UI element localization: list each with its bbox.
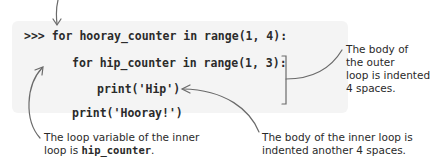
code-line-outer-for: >>> for hooray_counter in range(1, 4): <box>24 29 287 43</box>
annotation-line: The body of the inner loop is <box>262 131 413 144</box>
annotation-text: . <box>151 144 154 156</box>
inner-variable-annotation: The loop variable of the inner loop is h… <box>44 131 199 157</box>
annotation-line: the outer <box>346 56 430 69</box>
annotation-line: loop is hip_counter. <box>44 144 199 157</box>
inner-body-annotation: The body of the inner loop is indented a… <box>262 131 413 157</box>
annotation-line: indented another 4 spaces. <box>262 144 413 157</box>
code-line-print-hip: print('Hip') <box>97 82 180 96</box>
annotation-text: loop is <box>44 144 82 156</box>
annotation-line: The body of <box>346 43 430 56</box>
code-line-print-hooray: print('Hooray!') <box>72 106 183 120</box>
annotation-line: 4 spaces. <box>346 82 430 95</box>
annotation-line: loop is indented <box>346 69 430 82</box>
code-line-inner-for: for hip_counter in range(1, 3): <box>72 56 287 70</box>
variable-name: hip_counter <box>82 144 152 156</box>
annotation-line: The loop variable of the inner <box>44 131 199 144</box>
outer-body-annotation: The body of the outer loop is indented 4… <box>346 43 430 95</box>
